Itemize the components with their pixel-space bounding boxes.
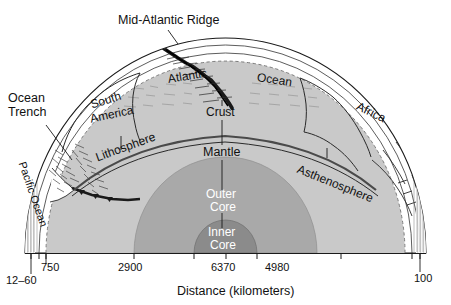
- label-ocean-trench-line1: Ocean: [8, 91, 45, 105]
- label-ocean-trench-line2: Trench: [8, 105, 46, 119]
- earth-cross-section-figure: Mid-Atlantic Ridge Ocean Trench Pacific …: [0, 0, 451, 305]
- leader-mid-atlantic-ridge: [168, 30, 178, 44]
- axis-tick-label-12-60: 12–60: [6, 274, 37, 286]
- axis-tick-label-6370: 6370: [211, 261, 235, 273]
- axis-ticks: [31, 254, 420, 260]
- axis-tick-label-750: 750: [41, 261, 59, 273]
- axis-title: Distance (kilometers): [177, 284, 294, 298]
- axis-tick-label-100: 100: [414, 272, 432, 284]
- label-mantle: Mantle: [203, 145, 241, 159]
- axis-tick-label-2900: 2900: [118, 261, 142, 273]
- axis-tick-label-4980: 4980: [265, 261, 289, 273]
- label-outer-core-line2: Core: [210, 201, 236, 214]
- label-mid-atlantic-ridge: Mid-Atlantic Ridge: [118, 13, 219, 27]
- label-crust: Crust: [206, 106, 235, 119]
- label-inner-core-line2: Core: [210, 239, 236, 252]
